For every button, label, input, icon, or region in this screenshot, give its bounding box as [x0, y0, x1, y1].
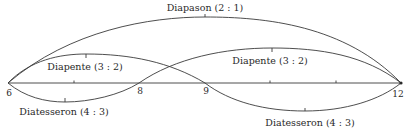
arc-diapente-right-label: Diapente (3 : 2) [232, 55, 307, 66]
arc-diatesseron-left-label: Diatesseron (4 : 3) [19, 106, 108, 117]
arc-diapason-label: Diapason (2 : 1) [167, 2, 244, 13]
arc-diapente-left-label: Diapente (3 : 2) [47, 61, 122, 72]
arc-diatesseron-right-label: Diatesseron (4 : 3) [265, 117, 354, 128]
label-6: 6 [6, 88, 12, 98]
endpoint-12-dot [399, 81, 402, 84]
label-9: 9 [203, 86, 209, 96]
label-12: 12 [392, 89, 403, 99]
harmonic-intervals-diagram: Diapason (2 : 1) Diapente (3 : 2) Diapen… [0, 0, 408, 130]
arc-diatesseron-left [8, 83, 139, 102]
arc-diapason [8, 17, 401, 83]
label-8: 8 [137, 86, 143, 96]
arc-diatesseron-right [205, 83, 401, 111]
